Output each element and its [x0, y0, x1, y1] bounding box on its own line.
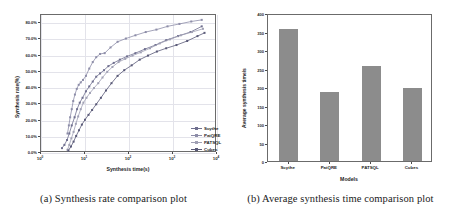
bar-cubes	[403, 88, 422, 161]
x-axis-tick-mark	[84, 152, 85, 154]
x-axis-tick-label: 100	[37, 155, 44, 161]
legend-item-patsql[interactable]: PATSQL	[191, 139, 225, 146]
y-axis-tick-label: 0	[251, 160, 264, 165]
legend-marker-patqre	[191, 133, 202, 138]
x-axis-tick-mark	[411, 162, 412, 164]
line-plot-legend: Scythe PatQRE PATSQL	[191, 125, 225, 153]
x-axis-tick-label: 104	[213, 155, 220, 161]
y-axis-tick-label: 400	[251, 12, 264, 17]
bar-scythe	[279, 29, 298, 161]
y-axis-tick-mark	[265, 107, 267, 108]
y-axis-tick-mark	[38, 22, 40, 23]
y-axis-tick-label: 50.0%	[0, 68, 37, 73]
y-axis-tick-mark	[265, 88, 267, 89]
line-series-scythe	[61, 25, 203, 149]
x-axis-tick-label: 101	[81, 155, 88, 161]
line-series-cubes	[67, 32, 205, 152]
y-axis-tick-mark	[38, 120, 40, 121]
x-axis-tick-mark	[288, 162, 289, 164]
bar-patsql	[362, 66, 381, 161]
panel-a-caption: (a) Synthesis rate comparison plot	[0, 193, 227, 204]
x-axis-tick-mark	[172, 152, 173, 154]
figure-two-panel: Scythe PatQRE PATSQL	[0, 0, 454, 216]
y-axis-tick-mark	[265, 144, 267, 145]
y-axis-tick-label: 70.0%	[0, 36, 37, 41]
y-axis-tick-mark	[265, 162, 267, 163]
y-axis-tick-label: 0.0%	[0, 150, 37, 155]
y-axis-tick-label: 50	[251, 141, 264, 146]
x-axis-tick-mark	[370, 162, 371, 164]
y-axis-tick-mark	[38, 103, 40, 104]
y-axis-tick-mark	[265, 33, 267, 34]
y-axis-tick-label: 350	[251, 30, 264, 35]
y-axis-tick-mark	[38, 71, 40, 72]
x-axis-category-label: PatQRE	[321, 165, 337, 170]
legend-label-scythe: Scythe	[204, 126, 218, 131]
legend-item-scythe[interactable]: Scythe	[191, 125, 225, 132]
line-plot-y-axis-title: Synthesis rate(%)	[14, 76, 20, 118]
legend-item-cubes[interactable]: Cubes	[191, 146, 225, 153]
panel-synthesis-rate: Scythe PatQRE PATSQL	[0, 0, 227, 216]
y-axis-tick-label: 150	[251, 104, 264, 109]
legend-label-patqre: PatQRE	[204, 133, 220, 138]
x-axis-tick-mark	[128, 152, 129, 154]
bar-plot-x-axis-title: Models	[340, 176, 358, 182]
y-axis-tick-label: 300	[251, 49, 264, 54]
x-axis-category-label: Scythe	[280, 165, 294, 170]
y-axis-tick-label: 250	[251, 67, 264, 72]
y-axis-tick-label: 100	[251, 123, 264, 128]
legend-item-patqre[interactable]: PatQRE	[191, 132, 225, 139]
y-axis-tick-label: 80.0%	[0, 20, 37, 25]
bar-plot-y-axis-title: Average synthesis time/s	[241, 68, 247, 128]
y-axis-tick-label: 10.0%	[0, 133, 37, 138]
y-axis-tick-mark	[38, 38, 40, 39]
panel-average-synthesis-time: 050100150200250300350400 ScythePatQREPAT…	[227, 0, 454, 216]
x-axis-category-label: Cubes	[405, 165, 418, 170]
panel-b-caption: (b) Average synthesis time comparison pl…	[227, 193, 454, 204]
x-axis-category-label: PATSQL	[362, 165, 379, 170]
y-axis-tick-mark	[38, 87, 40, 88]
x-axis-tick-label: 103	[169, 155, 176, 161]
y-axis-tick-mark	[265, 14, 267, 15]
x-axis-tick-label: 102	[125, 155, 132, 161]
x-axis-tick-mark	[216, 152, 217, 154]
y-axis-tick-mark	[38, 136, 40, 137]
bar-patqre	[320, 92, 339, 161]
line-plot-area: Scythe PatQRE PATSQL	[40, 14, 216, 152]
y-axis-tick-mark	[38, 55, 40, 56]
y-axis-tick-mark	[265, 70, 267, 71]
x-axis-tick-mark	[40, 152, 41, 154]
line-plot-x-axis-title: Synthesis time(s)	[107, 166, 150, 172]
legend-marker-patsql	[191, 140, 202, 145]
bar-plot-area	[267, 14, 432, 162]
y-axis-tick-mark	[265, 51, 267, 52]
y-axis-tick-mark	[265, 125, 267, 126]
legend-marker-scythe	[191, 126, 202, 131]
y-axis-tick-label: 60.0%	[0, 52, 37, 57]
legend-label-patsql: PATSQL	[204, 140, 221, 145]
y-axis-tick-label: 200	[251, 86, 264, 91]
x-axis-tick-mark	[329, 162, 330, 164]
legend-marker-cubes	[191, 147, 202, 152]
